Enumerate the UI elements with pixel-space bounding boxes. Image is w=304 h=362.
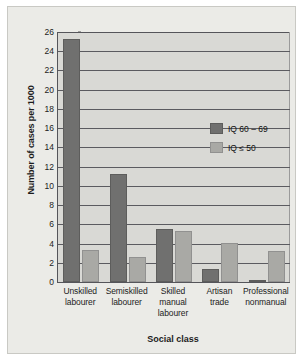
- bar: [268, 251, 285, 282]
- bar: [63, 39, 80, 282]
- x-axis-title: Social class: [57, 334, 289, 344]
- y-tick-label: 6: [32, 220, 54, 229]
- legend-swatch-icon: [210, 142, 223, 153]
- legend-swatch-icon: [210, 123, 223, 134]
- legend-entry: IQ 60 – 69: [210, 120, 292, 137]
- y-tick-label: 26: [32, 28, 54, 37]
- chart-legend: IQ 60 – 69 IQ ≤ 50: [210, 120, 292, 158]
- bar: [221, 243, 238, 282]
- bar-group: [151, 32, 197, 282]
- figure-panel: Number of cases per 1000 024681012141618…: [7, 6, 296, 354]
- legend-label: IQ 60 – 69: [228, 124, 268, 134]
- bar: [110, 174, 127, 282]
- x-tick-label-line: nonmanual: [237, 297, 295, 308]
- x-tick-label-line: labourer: [144, 308, 202, 319]
- bar-group: [104, 32, 150, 282]
- y-tick-label: 18: [32, 105, 54, 114]
- legend-label: IQ ≤ 50: [228, 143, 256, 153]
- bar: [202, 269, 219, 282]
- y-tick-label: 24: [32, 47, 54, 56]
- y-axis-tick-labels: 02468101214161820222426: [32, 26, 54, 288]
- y-tick-label: 8: [32, 201, 54, 210]
- y-tick-label: 16: [32, 124, 54, 133]
- x-tick-label-line: Professional: [237, 286, 295, 297]
- bar: [82, 250, 99, 282]
- y-tick-label: 12: [32, 162, 54, 171]
- y-tick-label: 22: [32, 66, 54, 75]
- x-tick-label: Professionalnonmanual: [237, 286, 295, 308]
- x-axis-tick-labels: UnskilledlabourerSemiskilledlabourerSkil…: [57, 286, 289, 332]
- y-tick-label: 4: [32, 239, 54, 248]
- y-tick-label: 20: [32, 85, 54, 94]
- y-tick-label: 0: [32, 278, 54, 287]
- y-tick-label: 10: [32, 182, 54, 191]
- bar-group: [58, 32, 104, 282]
- plot-area: IQ 60 – 69 IQ ≤ 50: [57, 32, 290, 283]
- bar: [249, 280, 266, 282]
- y-tick-label: 2: [32, 259, 54, 268]
- y-tick-label: 14: [32, 143, 54, 152]
- legend-entry: IQ ≤ 50: [210, 139, 292, 156]
- bar: [156, 229, 173, 282]
- bar: [175, 231, 192, 282]
- bar: [129, 257, 146, 282]
